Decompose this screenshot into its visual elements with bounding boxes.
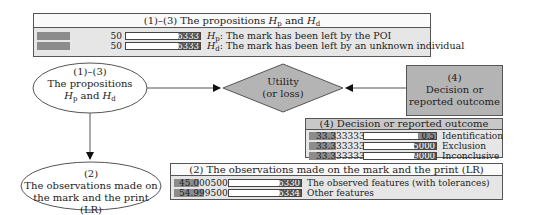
table-row: 33.333333 0.999000 Inconclusive bbox=[306, 151, 502, 161]
decision-table: (4) Decision or reported outcome 33.3333… bbox=[305, 118, 503, 158]
prob-box: 0.999000 bbox=[363, 152, 437, 160]
prob-value: 0.5 bbox=[421, 132, 435, 140]
table-row: 33.333333 0.5 Identification bbox=[306, 131, 502, 141]
belief-bar bbox=[37, 32, 70, 40]
table-row: 33.333333 0.995000 Exclusion bbox=[306, 141, 502, 151]
node-label: the mark and the print (LR) bbox=[21, 192, 161, 215]
prob-value: 0.696334 bbox=[259, 189, 300, 197]
node-label: The observations made on bbox=[21, 180, 161, 192]
node-label: Hp and Hd bbox=[40, 90, 140, 105]
observation-table-title: (2) The observations made on the mark an… bbox=[171, 164, 502, 176]
propositions-table: (1)–(3) The propositions Hp and Hd 50 0.… bbox=[33, 13, 431, 57]
propositions-table-title: (1)–(3) The propositions Hp and Hd bbox=[34, 14, 430, 28]
row-value: 45.000500 bbox=[179, 178, 225, 188]
node-label: (1)–(3) bbox=[40, 66, 140, 78]
node-label: Utility bbox=[243, 76, 323, 88]
table-row: 45.000500 0.996330 The observed features… bbox=[171, 178, 502, 188]
row-value: 33.333333 bbox=[316, 131, 360, 141]
node-observations[interactable]: (2) The observations made on the mark an… bbox=[21, 168, 161, 215]
table-row: 50 0.666333 Hd: The mark has been left b… bbox=[34, 41, 430, 51]
node-utility[interactable]: Utility (or loss) bbox=[243, 76, 323, 100]
row-label: Other features bbox=[307, 188, 374, 198]
row-label: Hd: The mark has been left by an unknown… bbox=[207, 41, 464, 54]
prob-value: 0.996330 bbox=[259, 179, 300, 187]
row-value: 50 bbox=[94, 41, 122, 51]
node-label: The propositions bbox=[40, 78, 140, 90]
prob-box: 0.995000 bbox=[363, 142, 437, 150]
row-label: The observed features (with tolerances) bbox=[307, 178, 490, 188]
node-label: (2) bbox=[21, 168, 161, 180]
node-label: Decision or bbox=[407, 84, 502, 96]
row-value: 33.333333 bbox=[316, 151, 360, 161]
table-row: 54.999500 0.696334 Other features bbox=[171, 188, 502, 198]
row-value: 33.333333 bbox=[316, 141, 360, 151]
node-propositions[interactable]: (1)–(3) The propositions Hp and Hd bbox=[40, 66, 140, 105]
observation-table: (2) The observations made on the mark an… bbox=[170, 163, 503, 200]
prob-box: 0.5 bbox=[363, 132, 437, 140]
node-decision[interactable]: (4) Decision or reported outcome bbox=[406, 65, 503, 116]
prob-box: 0.666333 bbox=[125, 42, 201, 50]
row-value: 50 bbox=[94, 31, 122, 41]
node-label: reported outcome bbox=[407, 96, 502, 108]
prob-value: 0.996333 bbox=[158, 32, 199, 40]
row-value: 54.999500 bbox=[179, 188, 225, 198]
node-label: (4) bbox=[407, 72, 502, 84]
decision-table-title: (4) Decision or reported outcome bbox=[306, 119, 502, 130]
row-label: Exclusion bbox=[442, 141, 486, 151]
prob-value: 0.995000 bbox=[394, 142, 435, 150]
row-label: Inconclusive bbox=[442, 151, 499, 161]
prob-box: 0.996330 bbox=[228, 179, 302, 187]
belief-bar bbox=[37, 42, 70, 50]
prob-value: 0.999000 bbox=[394, 152, 435, 160]
prob-box: 0.696334 bbox=[228, 189, 302, 197]
node-label: (or loss) bbox=[243, 88, 323, 100]
prob-value: 0.666333 bbox=[158, 42, 199, 50]
prob-box: 0.996333 bbox=[125, 32, 201, 40]
row-label: Identification bbox=[442, 131, 503, 141]
